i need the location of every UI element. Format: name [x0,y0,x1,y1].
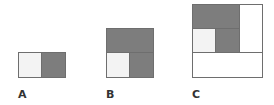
figure-a-dark-square [41,52,66,78]
figure-c-light-square [192,28,216,53]
figure-c-white-row [192,52,263,78]
figure-c-label: C [192,88,200,101]
figure-c-dark-rectangle [192,4,240,29]
figure-b-label: B [106,88,114,101]
figure-b-light-square [106,52,130,78]
figure-c-white-column [239,4,263,53]
figure-b-dark-rectangle [106,28,154,53]
figure-b-dark-square [129,52,154,78]
figure-c-dark-square [215,28,240,53]
figure-a-light-square [18,52,42,78]
figure-a-label: A [18,88,27,101]
